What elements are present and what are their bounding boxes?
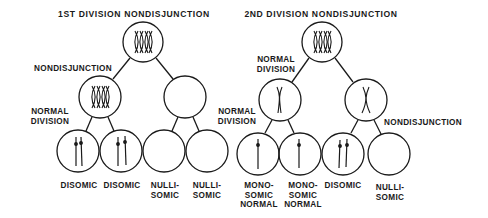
chromosome-icon [298, 139, 301, 168]
chromosome-pair-icon [314, 31, 331, 53]
connector-line [86, 117, 92, 131]
gamete-cell [279, 133, 321, 175]
chromosome-icon [257, 139, 260, 169]
connector-line [335, 58, 353, 82]
gamete-label: NULLI- SOMIC [184, 181, 230, 200]
panel-2nd-division [237, 22, 410, 175]
connector-line [108, 117, 114, 131]
panel-title: 2ND DIVISION NONDISJUNCTION [243, 10, 399, 20]
gamete-cell-empty [143, 130, 185, 172]
gamete-label: NULLI- SOMIC [142, 181, 188, 200]
gamete-label: NULLI- SOMIC [367, 183, 413, 202]
branch-label: NONDISJUNCTION [31, 64, 115, 74]
gamete-label: DISOMIC [56, 181, 102, 191]
gamete-label: MONO- SOMIC NORMAL [234, 181, 284, 210]
connector-line [265, 120, 272, 133]
chromosome-pair-icon [135, 31, 152, 53]
panel-1st-division [57, 22, 228, 172]
meiosis-ii-cell-empty [164, 76, 206, 118]
branch-label: NONDISJUNCTION [381, 118, 465, 128]
connector-line [288, 120, 294, 133]
gamete-cell [100, 130, 142, 172]
gamete-cell [322, 133, 364, 175]
branch-label: NORMAL DIVISION [213, 107, 261, 126]
chromosome-icon [117, 136, 127, 166]
connector-line [172, 117, 178, 131]
branch-label: NORMAL DIVISION [26, 107, 74, 126]
panel-title: 1ST DIVISION NONDISJUNCTION [55, 10, 213, 20]
chromosome-pair-icon [92, 86, 109, 108]
gamete-label: DISOMIC [320, 181, 366, 191]
connector-line [156, 58, 173, 79]
nondisjunction-diagram: 1ST DIVISION NONDISJUNCTION NONDISJUNCTI… [0, 0, 488, 218]
branch-label: NORMAL DIVISION [251, 55, 301, 74]
gamete-label: DISOMIC [99, 181, 145, 191]
chromosome-icon [362, 87, 370, 113]
connector-line [351, 120, 358, 133]
connector-line [113, 58, 130, 79]
connector-line [374, 120, 381, 134]
connector-line [193, 117, 199, 131]
chromosome-icon [277, 87, 282, 113]
chromosome-icon [339, 139, 349, 168]
gamete-cell [57, 130, 99, 172]
gamete-cell-empty [368, 133, 410, 175]
gamete-cell-empty [186, 130, 228, 172]
chromosome-icon [75, 137, 83, 166]
